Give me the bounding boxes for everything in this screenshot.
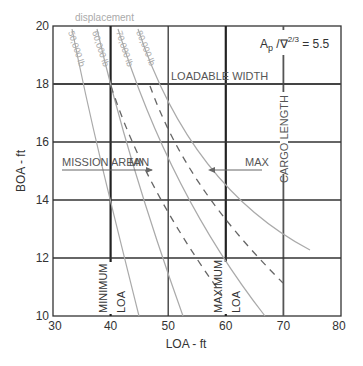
cargo-length-label: CARGO LENGTH xyxy=(278,95,290,183)
curve-label-50000: 50,000 lb xyxy=(66,30,87,68)
curve-min-dashed xyxy=(111,86,222,295)
max-label: MAX xyxy=(245,156,270,168)
y-tick-18: 18 xyxy=(36,77,50,91)
y-tick-20: 20 xyxy=(36,19,50,33)
curve-label-80000: 80,000 lb xyxy=(134,29,157,67)
min-label: MIN xyxy=(129,156,149,168)
displacement-label: displacement xyxy=(75,12,134,23)
x-tick-40: 40 xyxy=(104,319,118,333)
x-axis-label: LOA - ft xyxy=(166,337,207,351)
maximum-loa-label: LOA xyxy=(230,290,242,313)
loadable-width-label: LOADABLE WIDTH xyxy=(171,70,268,82)
y-tick-16: 16 xyxy=(36,135,50,149)
maximum-label: MAXIMUM xyxy=(212,260,224,313)
curve-max-dashed xyxy=(150,86,283,283)
x-tick-70: 70 xyxy=(277,319,291,333)
minimum-label: MINIMUM xyxy=(97,264,109,314)
y-axis-label: BOA - ft xyxy=(14,149,28,192)
chart: displacement 50,000 lb 60,000 lb 70,000 … xyxy=(0,0,363,366)
minimum-loa-label: LOA xyxy=(115,290,127,313)
curve-label-60000: 60,000 lb xyxy=(90,30,111,68)
x-tick-80: 80 xyxy=(332,319,346,333)
x-tick-60: 60 xyxy=(219,319,233,333)
curve-label-70000: 70,000 lb xyxy=(114,30,135,68)
x-tick-50: 50 xyxy=(162,319,176,333)
x-tick-30: 30 xyxy=(48,319,62,333)
y-tick-12: 12 xyxy=(36,251,50,265)
y-tick-10: 10 xyxy=(36,309,50,323)
y-tick-14: 14 xyxy=(36,193,50,207)
